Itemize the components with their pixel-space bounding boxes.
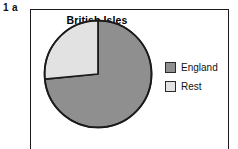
- pie-chart: [43, 19, 153, 129]
- pie-chart-svg: [43, 19, 153, 129]
- pie-slice-rest: [45, 21, 98, 80]
- chart-frame: British Isles England Rest: [30, 9, 229, 149]
- legend-label-england: England: [181, 62, 218, 73]
- question-part: a: [12, 2, 18, 13]
- chart-legend: England Rest: [165, 58, 227, 96]
- legend-label-rest: Rest: [181, 81, 202, 92]
- legend-item-england: England: [165, 58, 227, 77]
- question-label: 1a: [3, 2, 18, 14]
- legend-item-rest: Rest: [165, 77, 227, 96]
- question-number: 1: [3, 2, 9, 13]
- legend-swatch-rest: [165, 81, 176, 92]
- legend-swatch-england: [165, 62, 176, 73]
